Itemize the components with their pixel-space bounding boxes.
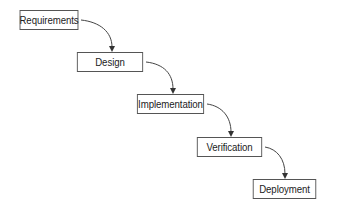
step-implementation: Implementation <box>137 94 204 114</box>
arrow-verification-to-deployment <box>265 147 285 174</box>
arrow-requirements-to-design <box>81 20 112 47</box>
arrow-design-to-implementation <box>146 62 173 89</box>
step-verification: Verification <box>197 137 262 157</box>
arrow-implementation-to-verification <box>207 104 231 132</box>
waterfall-diagram: Requirements Design Implementation Verif… <box>0 0 338 213</box>
step-design: Design <box>77 52 143 72</box>
step-requirements: Requirements <box>20 10 79 30</box>
step-deployment: Deployment <box>253 179 316 199</box>
